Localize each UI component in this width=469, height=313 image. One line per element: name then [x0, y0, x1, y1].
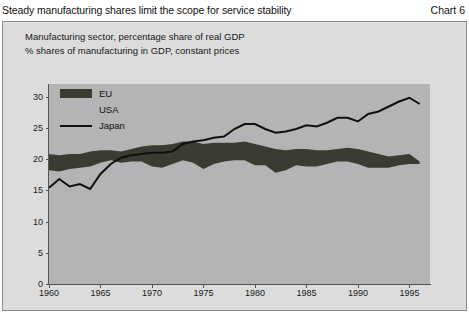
- legend-swatch-icon: [60, 89, 92, 98]
- x-axis-tick-label: 1965: [90, 288, 110, 298]
- legend-item-label: Japan: [99, 120, 125, 131]
- chart-header: Steady manufacturing shares limit the sc…: [0, 0, 469, 20]
- legend-item-label: EU: [99, 88, 112, 99]
- x-axis-tick-label: 1995: [399, 288, 419, 298]
- x-axis-tick-labels: 19601965197019751980198519901995: [49, 288, 430, 302]
- legend-item-usa: USA: [60, 102, 125, 116]
- y-axis-tick-labels: 051015202530: [19, 84, 43, 284]
- x-axis-tick-label: 1980: [245, 288, 265, 298]
- y-axis-line: [48, 84, 49, 284]
- subtitle-line-2: % shares of manufacturing in GDP, consta…: [25, 44, 245, 58]
- legend-item-label: USA: [99, 104, 119, 115]
- usa-area-series: [49, 160, 420, 284]
- y-axis-tick-label: 10: [33, 217, 43, 227]
- legend-line-icon: [60, 121, 92, 130]
- x-axis-tick-label: 1970: [142, 288, 162, 298]
- x-axis-tick-label: 1960: [39, 288, 59, 298]
- page-title: Steady manufacturing shares limit the sc…: [2, 4, 291, 16]
- subtitle-line-1: Manufacturing sector, percentage share o…: [25, 30, 245, 44]
- y-axis-tick-label: 15: [33, 185, 43, 195]
- y-axis-tick-label: 30: [33, 92, 43, 102]
- x-axis-tick-label: 1990: [348, 288, 368, 298]
- figure-panel: Manufacturing sector, percentage share o…: [2, 21, 467, 311]
- chart-number-label: Chart 6: [431, 4, 465, 16]
- legend-item-japan: Japan: [60, 118, 125, 132]
- y-axis-tick-label: 20: [33, 154, 43, 164]
- x-axis-tick-label: 1975: [193, 288, 213, 298]
- legend-item-eu: EU: [60, 86, 125, 100]
- y-axis-tick-label: 25: [33, 123, 43, 133]
- subtitle-block: Manufacturing sector, percentage share o…: [25, 30, 245, 58]
- legend-swatch-icon: [60, 105, 92, 114]
- chart-legend: EUUSAJapan: [60, 86, 125, 134]
- x-axis-tick-label: 1985: [296, 288, 316, 298]
- y-axis-tick-label: 5: [38, 248, 43, 258]
